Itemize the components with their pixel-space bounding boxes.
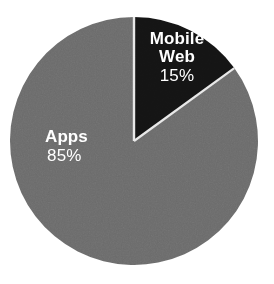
pie-label-mobile-web-line1: Mobile <box>146 30 208 48</box>
pie-label-apps: Apps 85% <box>45 128 125 164</box>
pie-label-apps-line1: Apps <box>45 128 125 146</box>
pie-value-mobile-web: 15% <box>146 67 208 85</box>
pie-label-mobile-web-line2: Web <box>146 48 208 66</box>
pie-chart-figure: Mobile Web 15% Apps 85% <box>0 0 274 284</box>
pie-value-apps: 85% <box>45 147 125 165</box>
pie-chart-canvas <box>0 0 274 284</box>
pie-label-mobile-web: Mobile Web 15% <box>146 30 208 85</box>
